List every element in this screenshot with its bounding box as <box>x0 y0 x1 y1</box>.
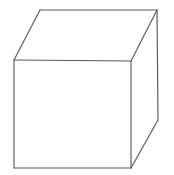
cube-face-front <box>14 60 131 168</box>
cube-wireframe-drawing: Wireframe cube line drawing An outline d… <box>0 0 174 175</box>
cube-faces-group <box>14 10 158 168</box>
figure-canvas: Wireframe cube line drawing An outline d… <box>0 0 174 175</box>
